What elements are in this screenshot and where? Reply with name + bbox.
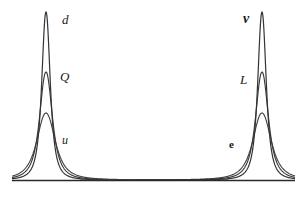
label-up-quark: u <box>62 134 68 146</box>
label-down-quark: d <box>62 13 69 26</box>
label-lepton-doublet: L <box>240 73 247 86</box>
peak-profile-figure <box>0 0 307 198</box>
label-quark-doublet: Q <box>60 70 69 83</box>
label-neutrino: ν <box>243 12 249 26</box>
label-electron: e <box>229 139 234 150</box>
figure-background <box>0 0 307 198</box>
